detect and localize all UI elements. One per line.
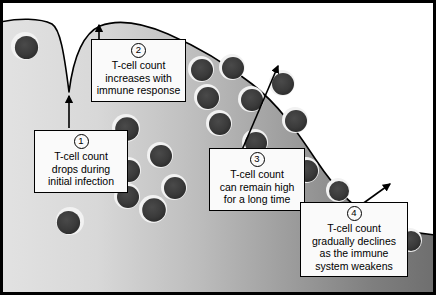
- callout-4-line-1: T-cell count: [305, 222, 403, 235]
- tcell: [269, 70, 295, 96]
- callout-2-line-3: immune response: [96, 84, 181, 97]
- tcell-count-diagram: faint bleed-through text faint bleed-thr…: [0, 0, 436, 295]
- tcell: [219, 54, 245, 80]
- callout-3-number: 3: [250, 152, 265, 167]
- callout-2-line-2: increases with: [96, 72, 181, 85]
- callout-1-number: 1: [74, 134, 89, 149]
- callout-4: 4 T-cell count gradually declines as the…: [300, 202, 408, 277]
- callout-1: 1 T-cell count drops during initial infe…: [34, 130, 128, 193]
- callout-4-line-4: system weakens: [305, 260, 403, 273]
- callout-1-line-2: drops during: [39, 163, 123, 176]
- callout-2: 2 T-cell count increases with immune res…: [91, 39, 186, 102]
- tcell: [147, 142, 173, 168]
- tcell: [326, 178, 350, 202]
- callout-1-line-1: T-cell count: [39, 150, 123, 163]
- tcell: [139, 195, 167, 223]
- callout-4-number: 4: [347, 206, 362, 221]
- callout-4-line-3: as the immune: [305, 247, 403, 260]
- tcell: [161, 174, 187, 200]
- callout-1-line-3: initial infection: [39, 175, 123, 188]
- tcell: [194, 84, 220, 110]
- callout-4-line-2: gradually declines: [305, 235, 403, 248]
- callout-2-number: 2: [131, 43, 146, 58]
- tcell: [282, 107, 308, 133]
- callout-2-line-1: T-cell count: [96, 59, 181, 72]
- tcell: [206, 110, 232, 136]
- callout-3: 3 T-cell count can remain high for a lon…: [209, 148, 305, 211]
- callout-3-line-1: T-cell count: [214, 168, 300, 181]
- callout-3-line-2: can remain high: [214, 181, 300, 194]
- tcell: [11, 32, 39, 60]
- callout-3-line-3: for a long time: [214, 193, 300, 206]
- tcell: [56, 207, 84, 235]
- tcell: [188, 56, 214, 82]
